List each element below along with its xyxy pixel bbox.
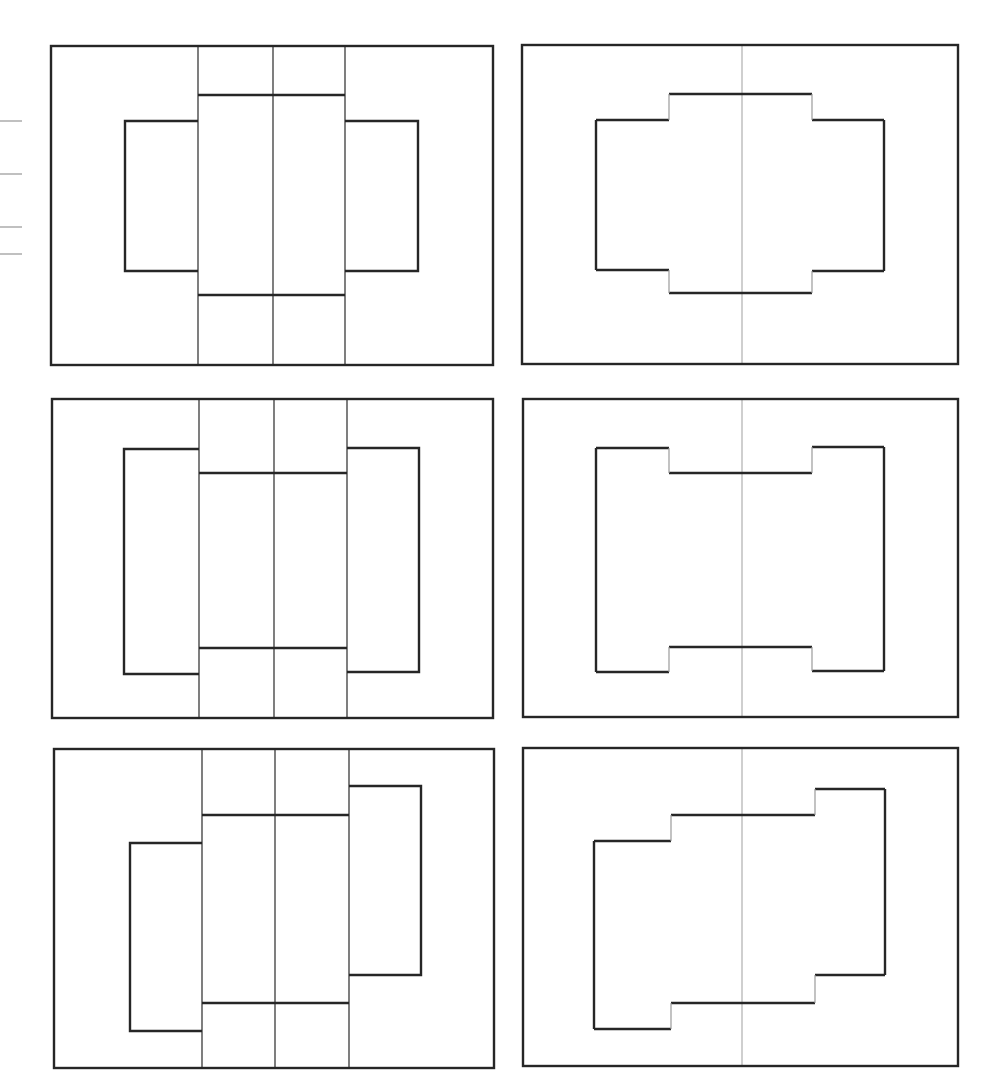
left-side-block <box>124 449 199 674</box>
bottom-left-panel <box>54 749 494 1068</box>
right-side-block <box>345 121 418 271</box>
left-side-block <box>125 121 198 271</box>
panel-frame <box>54 749 494 1068</box>
left-column-decompositions <box>51 46 494 1068</box>
left-side-block <box>130 843 202 1031</box>
margin-tick-marks <box>0 121 22 254</box>
bottom-right-panel <box>523 748 958 1066</box>
panel-frame <box>523 748 958 1066</box>
right-side-block <box>349 786 421 975</box>
right-side-block <box>347 448 419 672</box>
top-left-panel <box>51 46 493 365</box>
panel-frame <box>52 399 493 718</box>
middle-right-panel <box>523 399 958 717</box>
panel-frame <box>523 399 958 717</box>
diagram-figure <box>0 0 997 1086</box>
right-column-outlines <box>522 45 958 1066</box>
top-right-panel <box>522 45 958 364</box>
middle-left-panel <box>52 399 493 718</box>
